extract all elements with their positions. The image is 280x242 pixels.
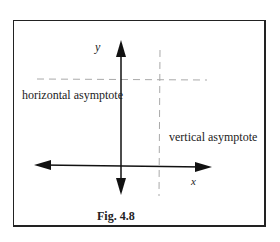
y-axis-down-arrow-icon: [116, 178, 126, 195]
vertical-asymptote-label: vertical asymptote: [169, 130, 257, 145]
x-axis-label: x: [191, 175, 196, 187]
y-axis-up-arrow-icon: [116, 40, 126, 57]
horizontal-asymptote-line: [37, 79, 207, 80]
x-axis-right-arrow-icon: [195, 162, 212, 172]
horizontal-asymptote-label: horizontal asymptote: [22, 88, 123, 103]
y-axis-label: y: [95, 40, 100, 55]
vertical-asymptote-line: [159, 50, 160, 196]
figure-caption: Fig. 4.8: [97, 209, 135, 224]
axes-diagram: [0, 0, 280, 242]
x-axis: [42, 165, 204, 167]
x-axis-left-arrow-icon: [34, 160, 51, 170]
